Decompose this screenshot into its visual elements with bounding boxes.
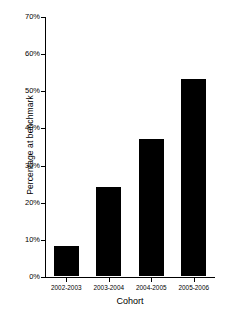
x-axis-tick-label: 2005-2006: [173, 284, 216, 292]
bar: [96, 187, 121, 276]
x-axis-line: [45, 277, 215, 278]
plot-area: [45, 17, 215, 277]
y-axis-tick: [41, 128, 45, 129]
y-axis-tick-label: 60%: [14, 50, 40, 58]
x-axis-tick-label: 2004-2005: [130, 284, 173, 292]
bar: [139, 139, 164, 276]
bar-chart: Percentage at benchmark 0%10%20%30%40%50…: [0, 0, 226, 321]
x-axis-tick: [151, 278, 152, 282]
y-axis-tick-label: 10%: [14, 236, 40, 244]
y-axis-line: [45, 17, 46, 278]
y-axis-tick-labels: 0%10%20%30%40%50%60%70%: [14, 0, 40, 321]
y-axis-tick: [41, 203, 45, 204]
y-axis-tick: [41, 54, 45, 55]
bar: [181, 79, 206, 276]
y-axis-tick: [41, 166, 45, 167]
y-axis-tick: [41, 17, 45, 18]
y-axis-tick-label: 0%: [14, 273, 40, 281]
x-axis-tick: [194, 278, 195, 282]
x-axis-tick-labels: 2002-20032003-20042004-20052005-2006: [45, 284, 215, 296]
bar: [54, 246, 79, 276]
y-axis-tick: [41, 240, 45, 241]
y-axis-tick: [41, 91, 45, 92]
y-axis-tick-label: 50%: [14, 87, 40, 95]
x-axis-tick-label: 2003-2004: [88, 284, 131, 292]
x-axis-tick: [66, 278, 67, 282]
y-axis-tick-label: 30%: [14, 162, 40, 170]
x-axis-tick-label: 2002-2003: [45, 284, 88, 292]
y-axis-tick-label: 40%: [14, 124, 40, 132]
y-axis-tick-label: 20%: [14, 199, 40, 207]
y-axis-tick: [41, 277, 45, 278]
x-axis-tick: [109, 278, 110, 282]
x-axis-title: Cohort: [45, 296, 215, 306]
y-axis-tick-label: 70%: [14, 13, 40, 21]
